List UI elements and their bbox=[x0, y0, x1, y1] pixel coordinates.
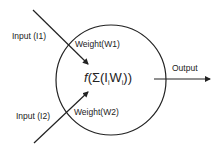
output-label: Output bbox=[172, 64, 198, 73]
formula-open: (Σ(I bbox=[88, 70, 108, 85]
input-1-label: Input (I1) bbox=[12, 32, 46, 41]
formula-weight: W bbox=[110, 70, 122, 85]
weight-2-label: Weight(W2) bbox=[74, 108, 119, 117]
weight-1-label: Weight(W1) bbox=[75, 40, 120, 49]
neuron-formula: f(Σ(IiWi)) bbox=[84, 71, 132, 86]
formula-close: )) bbox=[123, 70, 132, 85]
input-2-label: Input (I2) bbox=[16, 112, 50, 121]
